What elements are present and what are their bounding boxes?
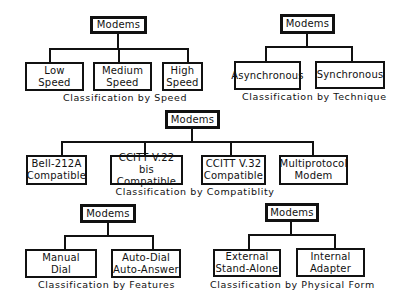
physical-caption: Classification by Physical Form [210,279,370,290]
connector [152,235,154,250]
connector [117,34,119,49]
connector [187,48,189,63]
synchronous-node: Synchronous [315,61,385,89]
features-root-node: Modems [80,204,136,223]
multiprotocol-node: Multiprotocol Modem [279,155,348,185]
connector [61,141,63,156]
technique-caption: Classification by Technique [242,91,377,102]
connector [230,141,232,156]
auto-dial-node: Auto-Dial Auto-Answer [111,249,181,278]
external-standalone-node: External Stand-Alone [213,249,281,277]
speed-caption: Classification by Speed [60,92,190,103]
compatibility-root-node: Modems [165,110,220,129]
connector [64,235,154,237]
connector [265,46,353,48]
ccitt-v32-node: CCITT V.32 Compatible [201,155,266,185]
compatibility-caption: Classification by Compatiblity [110,186,280,197]
features-caption: Classification by Features [38,279,173,290]
connector [351,46,353,62]
medium-speed-node: Medium Speed [93,62,152,91]
connector [248,234,250,250]
technique-root-node: Modems [280,14,335,34]
manual-dial-node: Manual Dial [25,249,97,278]
connector [49,48,51,63]
asynchronous-node: Asynchronous [234,61,301,90]
connector [61,141,314,143]
physical-root-node: Modems [265,203,319,222]
speed-root-node: Modems [90,16,147,34]
connector [118,48,120,63]
high-speed-node: High Speed [162,62,203,91]
internal-adapter-node: Internal Adapter [296,248,365,277]
connector [64,235,66,250]
bell-212a-node: Bell-212A Compatible [26,155,87,185]
ccitt-v22bis-node: CCITT V.22 bis Compatible [110,155,183,185]
low-speed-node: Low Speed [25,62,84,91]
connector [248,234,336,236]
connector [265,46,267,62]
connector [312,141,314,156]
